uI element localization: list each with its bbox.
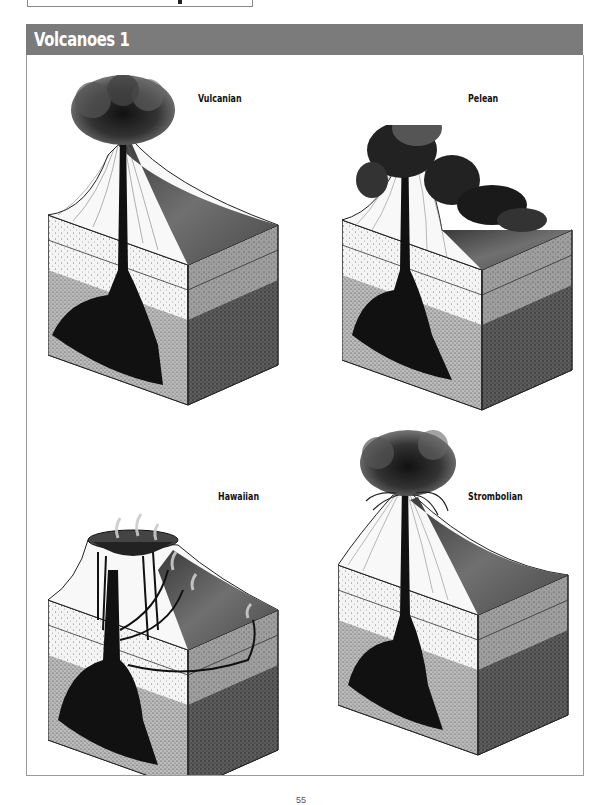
label-vulcanian: Vulcanian bbox=[198, 92, 242, 105]
previous-section-box bbox=[27, 0, 253, 7]
diagram-strombolian bbox=[338, 425, 578, 760]
label-pelean: Pelean bbox=[468, 92, 498, 105]
diagram-pelean bbox=[342, 125, 582, 415]
volcano-strombolian-icon bbox=[338, 425, 578, 760]
label-hawaiian: Hawaiian bbox=[218, 490, 259, 503]
volcano-vulcanian-icon bbox=[48, 75, 288, 410]
section-header: Volcanoes 1 bbox=[26, 24, 583, 56]
label-strombolian: Strombolian bbox=[468, 490, 523, 503]
volcano-pelean-icon bbox=[342, 125, 582, 415]
page-number: 55 bbox=[296, 795, 306, 805]
diagram-vulcanian bbox=[48, 75, 288, 410]
cut-off-glyph bbox=[178, 0, 182, 4]
section-title: Volcanoes 1 bbox=[34, 26, 130, 52]
